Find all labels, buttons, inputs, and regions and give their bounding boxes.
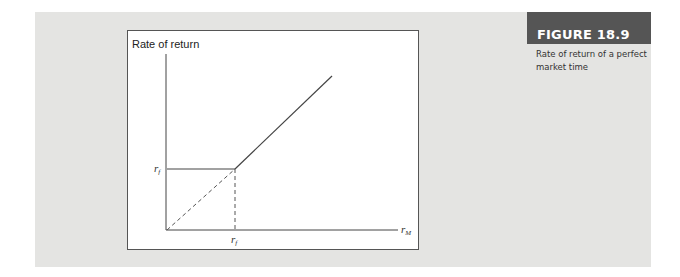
y-tick-rf: rf — [154, 162, 161, 176]
figure-label: FIGURE 18.9 — [527, 12, 651, 44]
figure-caption: Rate of return of a perfect market time — [536, 48, 654, 74]
x-axis-label: rM — [401, 223, 412, 237]
dashed-diagonal — [167, 169, 235, 230]
y-axis-label: Rate of return — [132, 38, 199, 50]
rising-return-segment — [235, 76, 332, 169]
x-tick-rf: rf — [231, 233, 238, 247]
